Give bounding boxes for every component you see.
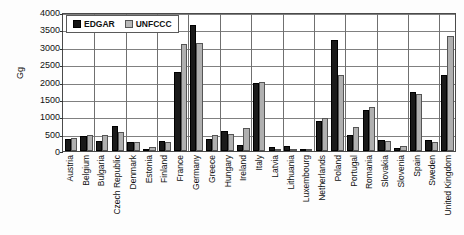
y-tick-label: 2500 xyxy=(40,60,60,70)
y-tick-label: 1000 xyxy=(40,112,60,122)
bar-unfccc xyxy=(165,142,171,151)
bar-chart: Gg 05001000150020002500300035004000 EDGA… xyxy=(0,0,464,235)
bar-unfccc xyxy=(71,138,77,151)
x-tick-cell: Spain xyxy=(409,153,425,233)
bar-group xyxy=(204,14,220,151)
x-tick-cell: Greece xyxy=(204,153,220,233)
y-tick-label: 2000 xyxy=(40,78,60,88)
x-tick-label: Greece xyxy=(207,155,217,183)
legend-label: EDGAR xyxy=(84,19,115,29)
bar-unfccc xyxy=(87,135,93,151)
y-tick-label: 3500 xyxy=(40,25,60,35)
x-tick-cell: Hungary xyxy=(220,153,236,233)
x-tick-cell: Italy xyxy=(251,153,267,233)
x-tick-label: Ireland xyxy=(238,155,248,181)
x-tick-cell: Lithuania xyxy=(283,153,299,233)
bar-group xyxy=(236,14,252,151)
x-tick-cell: Estonia xyxy=(141,153,157,233)
x-tick-cell: Sweden xyxy=(425,153,441,233)
x-tick-label: Belgium xyxy=(81,155,91,186)
y-tick-label: 1500 xyxy=(40,95,60,105)
x-tick-label: Slovakia xyxy=(380,155,390,187)
bar-group xyxy=(126,14,142,151)
x-tick-cell: Ireland xyxy=(235,153,251,233)
bar-unfccc xyxy=(118,132,124,151)
x-tick-label: Poland xyxy=(333,155,343,181)
legend-swatch-icon xyxy=(73,20,81,28)
x-tick-cell: Slovenia xyxy=(393,153,409,233)
bar-group xyxy=(440,14,456,151)
bar-group xyxy=(345,14,361,151)
x-tick-label: Lithuania xyxy=(286,155,296,190)
bar-unfccc xyxy=(447,36,453,151)
bar-group xyxy=(251,14,267,151)
bar-group xyxy=(298,14,314,151)
bar-unfccc xyxy=(181,44,187,151)
y-tick-label: 4000 xyxy=(40,8,60,18)
bar-unfccc xyxy=(228,134,234,151)
bar-group xyxy=(94,14,110,151)
x-tick-cell: Netherlands xyxy=(314,153,330,233)
bar-unfccc xyxy=(243,128,249,151)
x-tick-label: Netherlands xyxy=(317,155,327,201)
legend-item: EDGAR xyxy=(73,19,115,29)
bar-unfccc xyxy=(212,135,218,151)
x-tick-cell: Denmark xyxy=(125,153,141,233)
bar-group xyxy=(361,14,377,151)
bar-unfccc xyxy=(416,94,422,151)
y-axis-tick-labels: 05001000150020002500300035004000 xyxy=(26,9,60,155)
x-tick-label: Latvia xyxy=(270,155,280,178)
x-tick-label: Denmark xyxy=(128,155,138,189)
bar-group xyxy=(173,14,189,151)
x-tick-label: Luxembourg xyxy=(301,155,311,202)
bar-unfccc xyxy=(259,82,265,152)
bar-unfccc xyxy=(400,146,406,151)
bar-group xyxy=(424,14,440,151)
y-tick-label: 500 xyxy=(45,130,60,140)
x-tick-label: Finland xyxy=(159,155,169,183)
x-tick-label: Estonia xyxy=(144,155,154,183)
x-tick-label: Germany xyxy=(191,155,201,190)
x-tick-cell: United Kingdom xyxy=(440,153,456,233)
bar-group xyxy=(63,14,79,151)
x-tick-label: Sweden xyxy=(427,155,437,186)
bar-group xyxy=(79,14,95,151)
bar-group xyxy=(141,14,157,151)
x-tick-label: Spain xyxy=(412,155,422,177)
x-tick-cell: Poland xyxy=(330,153,346,233)
x-tick-cell: Germany xyxy=(188,153,204,233)
x-tick-label: Slovenia xyxy=(396,155,406,188)
legend-item: UNFCCC xyxy=(125,19,172,29)
x-tick-label: Romania xyxy=(364,155,374,189)
x-axis-tick-labels: AustriaBelgiumBulgariaCzech RepublicDenm… xyxy=(62,153,456,233)
x-tick-cell: Austria xyxy=(62,153,78,233)
bar-group xyxy=(283,14,299,151)
x-tick-cell: Luxembourg xyxy=(298,153,314,233)
bar-unfccc xyxy=(102,135,108,151)
bar-unfccc xyxy=(306,149,312,151)
x-tick-label: Portugal xyxy=(349,155,359,187)
x-tick-label: France xyxy=(175,155,185,181)
bar-unfccc xyxy=(338,75,344,151)
bar-group xyxy=(314,14,330,151)
bar-group xyxy=(110,14,126,151)
bar-group xyxy=(189,14,205,151)
bar-unfccc xyxy=(369,107,375,151)
x-tick-cell: France xyxy=(172,153,188,233)
bar-group xyxy=(220,14,236,151)
bar-series-container xyxy=(63,14,455,151)
bar-unfccc xyxy=(322,118,328,151)
x-tick-label: United Kingdom xyxy=(443,155,453,215)
bar-unfccc xyxy=(196,43,202,151)
x-tick-cell: Finland xyxy=(157,153,173,233)
x-tick-label: Hungary xyxy=(223,155,233,187)
y-axis-title: Gg xyxy=(15,67,25,79)
x-tick-cell: Bulgaria xyxy=(94,153,110,233)
bar-unfccc xyxy=(290,149,296,151)
plot-area xyxy=(62,13,456,152)
bar-unfccc xyxy=(149,147,155,151)
x-tick-cell: Slovakia xyxy=(377,153,393,233)
bar-group xyxy=(408,14,424,151)
x-tick-cell: Portugal xyxy=(346,153,362,233)
legend-swatch-icon xyxy=(125,20,133,28)
